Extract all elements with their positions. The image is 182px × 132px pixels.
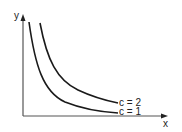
x-axis-label: x xyxy=(163,118,168,129)
y-axis-arrow-icon xyxy=(21,14,26,21)
curve-label-c-1: c = 1 xyxy=(119,106,141,117)
y-axis-label: y xyxy=(14,10,19,21)
level-curves-diagram: y x c = 2 c = 1 xyxy=(0,0,182,132)
